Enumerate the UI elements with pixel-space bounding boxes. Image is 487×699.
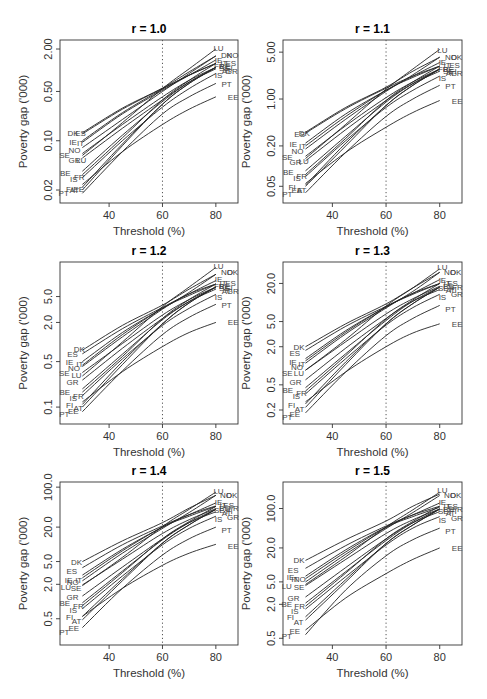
- y-axis-label: Poverty gap ('000): [240, 517, 252, 611]
- right-country-label: PT: [445, 82, 455, 91]
- y-tick-label: 2.0: [265, 339, 277, 354]
- plot-frame: [283, 482, 462, 645]
- right-country-label: PT: [221, 526, 231, 535]
- panel-title: r = 1.0: [131, 22, 166, 36]
- right-country-label: IS: [439, 293, 447, 302]
- panel-title: r = 1.3: [355, 244, 390, 258]
- right-country-label: EE: [228, 542, 239, 551]
- plot-frame: [60, 482, 238, 645]
- left-country-label: DK: [299, 129, 311, 138]
- series-line-pt: [306, 85, 440, 193]
- panel-r-1.4: r = 1.4 Threshold (%) Poverty gap ('000)…: [17, 464, 239, 679]
- left-country-label: SE: [282, 369, 293, 378]
- y-axis-label: Poverty gap ('000): [240, 296, 252, 390]
- left-country-label: FR: [294, 602, 305, 611]
- right-country-label: EE: [452, 320, 463, 329]
- y-tick-label: 5.00: [265, 41, 277, 62]
- left-country-label: LU: [61, 583, 71, 592]
- panel-title: r = 1.4: [131, 464, 166, 478]
- left-country-label: LU: [299, 157, 309, 166]
- series-line-lu: [306, 49, 440, 158]
- left-country-label: BE: [60, 169, 71, 178]
- left-country-label: PT: [282, 190, 292, 199]
- series-line-gr: [82, 69, 216, 158]
- y-axis-label: Poverty gap ('000): [17, 517, 29, 611]
- x-tick-label: 40: [326, 430, 338, 442]
- left-country-label: PT: [59, 628, 69, 637]
- right-country-label: PT: [221, 80, 231, 89]
- panel-r-1.3: r = 1.3 Threshold (%) Poverty gap ('000)…: [240, 244, 463, 458]
- y-tick-label: 20.0: [265, 537, 277, 558]
- panel-title: r = 1.5: [355, 464, 390, 478]
- series-line-lu: [82, 49, 216, 155]
- x-tick-label: 40: [326, 209, 338, 221]
- y-tick-label: 20.0: [42, 516, 54, 537]
- figure: r = 1.0 Threshold (%) Poverty gap ('000)…: [0, 0, 487, 699]
- left-country-label: BE: [282, 386, 293, 395]
- panel-r-1.0: r = 1.0 Threshold (%) Poverty gap ('000)…: [17, 22, 239, 237]
- series-line-is: [82, 294, 216, 395]
- left-country-label: ES: [66, 567, 77, 576]
- left-country-label: FR: [73, 392, 84, 401]
- y-tick-label: 5.0: [265, 314, 277, 329]
- x-tick-label: 80: [210, 430, 222, 442]
- series-line-no: [306, 496, 440, 582]
- right-country-label: GR: [227, 513, 239, 522]
- right-country-label: IS: [215, 515, 223, 524]
- series-line-dk: [82, 274, 216, 350]
- left-country-label: AT: [294, 618, 304, 627]
- y-tick-label: 2.0: [42, 315, 54, 330]
- panel-r-1.5: r = 1.5 Threshold (%) Poverty gap ('000)…: [240, 464, 463, 679]
- series-line-es: [82, 284, 216, 354]
- right-country-label: DK: [450, 268, 462, 277]
- series-line-lu: [306, 492, 440, 584]
- right-country-label: GR: [451, 69, 463, 78]
- right-country-label: PT: [445, 305, 455, 314]
- series-line-es: [306, 66, 440, 133]
- x-axis-label: Threshold (%): [336, 667, 408, 679]
- y-tick-label: 2.0: [265, 597, 277, 612]
- series-line-fr: [82, 63, 216, 174]
- right-country-label: PT: [221, 301, 231, 310]
- x-tick-label: 80: [210, 209, 222, 221]
- y-tick-label: 0.05: [265, 176, 277, 197]
- y-tick-label: 5.0: [42, 289, 54, 304]
- x-tick-label: 60: [156, 651, 168, 663]
- right-country-label: EE: [452, 544, 463, 553]
- y-tick-label: 20.0: [265, 273, 277, 294]
- y-axis-label: Poverty gap ('000): [17, 75, 29, 169]
- y-tick-label: 0.20: [265, 135, 277, 156]
- left-country-label: PT: [59, 410, 69, 419]
- plot-frame: [60, 40, 238, 203]
- left-country-label: AT: [297, 186, 307, 195]
- y-tick-label: 0.50: [42, 81, 54, 102]
- x-tick-label: 60: [380, 430, 392, 442]
- series-line-lu: [82, 268, 216, 377]
- y-axis-label: Poverty gap ('000): [240, 75, 252, 169]
- left-country-label: BE: [59, 599, 70, 608]
- x-tick-label: 60: [156, 209, 168, 221]
- x-tick-label: 40: [103, 651, 115, 663]
- x-tick-label: 40: [326, 651, 338, 663]
- right-country-label: GR: [227, 287, 239, 296]
- x-axis-label: Threshold (%): [336, 446, 408, 458]
- panel-r-1.1: r = 1.1 Threshold (%) Poverty gap ('000)…: [240, 22, 463, 237]
- y-tick-label: 5.0: [265, 574, 277, 589]
- right-country-label: EE: [452, 97, 463, 106]
- left-country-label: LU: [76, 156, 86, 165]
- series-line-fi: [82, 67, 216, 187]
- series-line-se: [82, 67, 216, 153]
- right-country-label: PT: [445, 527, 455, 536]
- left-country-label: NO: [68, 146, 80, 155]
- series-line-pt: [306, 305, 440, 413]
- series-line-ee: [306, 548, 440, 630]
- x-tick-label: 80: [210, 651, 222, 663]
- right-country-label: GR: [226, 67, 238, 76]
- right-country-label: IS: [439, 516, 447, 525]
- left-country-label: FR: [296, 389, 307, 398]
- y-tick-label: 0.02: [42, 179, 54, 200]
- series-line-at: [306, 509, 440, 620]
- series-line-fr: [82, 284, 216, 392]
- left-country-label: DK: [294, 556, 306, 565]
- x-tick-label: 60: [380, 209, 392, 221]
